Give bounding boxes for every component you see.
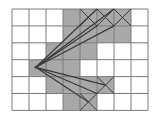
shaded-cell	[63, 9, 80, 26]
shaded-cell	[63, 60, 80, 77]
grid-diagram	[0, 0, 154, 116]
shaded-cell	[63, 94, 80, 111]
shaded-cell	[97, 26, 114, 43]
shaded-cell	[80, 43, 97, 60]
origin-point	[35, 66, 38, 69]
shaded-cell	[114, 26, 131, 43]
